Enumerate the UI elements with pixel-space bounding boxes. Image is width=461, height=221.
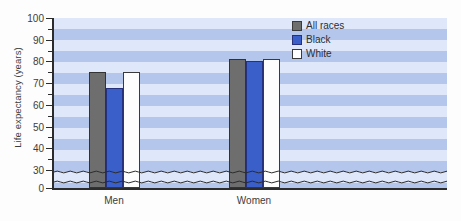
- legend-item-label: All races: [306, 20, 344, 31]
- y-axis-tick-mark: [46, 18, 53, 19]
- y-axis-tick-mark: [46, 188, 53, 189]
- bar-women-white: [263, 59, 280, 188]
- y-axis-tick-label: 60: [18, 99, 44, 110]
- y-axis-minor-tick-mark: [48, 29, 53, 30]
- legend-item: All races: [292, 19, 344, 32]
- legend: All racesBlackWhite: [292, 19, 344, 61]
- y-axis-tick-mark: [46, 61, 53, 62]
- bar-men-white: [123, 72, 140, 188]
- y-axis-tick-label: 50: [18, 121, 44, 132]
- y-axis-tick-label: 80: [18, 56, 44, 67]
- y-axis-tick-mark: [46, 40, 53, 41]
- legend-item-label: Black: [306, 34, 330, 45]
- y-axis-tick-label: 90: [18, 34, 44, 45]
- plot-area: [54, 18, 447, 188]
- y-axis-tick-mark: [46, 170, 53, 171]
- y-axis-minor-tick-mark: [48, 94, 53, 95]
- y-axis-tick-label: 0: [18, 183, 44, 194]
- bar-chart-figure: Life expectancy (years) 1009080706050403…: [0, 0, 461, 221]
- y-axis-tick-labels: 100908070605040300: [18, 0, 44, 221]
- legend-item: Black: [292, 33, 344, 46]
- bar-men-all-races: [89, 72, 106, 188]
- bar-women-black: [246, 61, 263, 188]
- y-axis-tick-label: 40: [18, 143, 44, 154]
- y-axis-minor-tick-mark: [48, 159, 53, 160]
- y-axis-tick-label: 100: [18, 13, 44, 24]
- y-axis-minor-tick-mark: [48, 51, 53, 52]
- x-axis-tick-label: Men: [104, 195, 123, 206]
- x-axis-tick-labels: MenWomen: [54, 195, 447, 215]
- y-axis-tick-mark: [46, 127, 53, 128]
- legend-item-label: White: [306, 48, 332, 59]
- y-axis-tick-mark: [46, 148, 53, 149]
- legend-swatch-icon: [292, 35, 302, 45]
- y-axis-minor-tick-mark: [48, 137, 53, 138]
- bar-men-black: [106, 88, 123, 189]
- y-axis-tick-mark: [46, 83, 53, 84]
- y-axis-tick-label: 70: [18, 78, 44, 89]
- y-axis-tick-mark: [46, 105, 53, 106]
- y-axis-minor-tick-mark: [48, 72, 53, 73]
- legend-swatch-icon: [292, 21, 302, 31]
- bar-women-all-races: [229, 59, 246, 188]
- x-axis-tick-label: Women: [237, 195, 271, 206]
- y-axis-tick-label: 30: [18, 165, 44, 176]
- x-axis-line: [52, 188, 447, 190]
- legend-swatch-icon: [292, 49, 302, 59]
- y-axis-minor-tick-mark: [48, 116, 53, 117]
- legend-item: White: [292, 47, 344, 60]
